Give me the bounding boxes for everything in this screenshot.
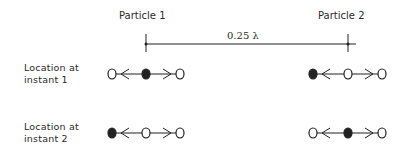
- particle-extreme-position-icon: [142, 128, 150, 138]
- particle-current-position-icon: [309, 69, 317, 79]
- particle-current-position-icon: [108, 128, 116, 138]
- particle-extreme-position-icon: [108, 69, 116, 79]
- particle-1-marker: [145, 43, 148, 46]
- particle-extreme-position-icon: [378, 69, 386, 79]
- particle-extreme-position-icon: [176, 69, 184, 79]
- particle-extreme-position-icon: [309, 128, 317, 138]
- particle-current-position-icon: [142, 69, 150, 79]
- particle-extreme-position-icon: [344, 69, 352, 79]
- particle-extreme-position-icon: [176, 128, 184, 138]
- wave-particle-diagram: [0, 0, 410, 152]
- particle-current-position-icon: [344, 128, 352, 138]
- particle-extreme-position-icon: [378, 128, 386, 138]
- particle-2-marker: [347, 43, 350, 46]
